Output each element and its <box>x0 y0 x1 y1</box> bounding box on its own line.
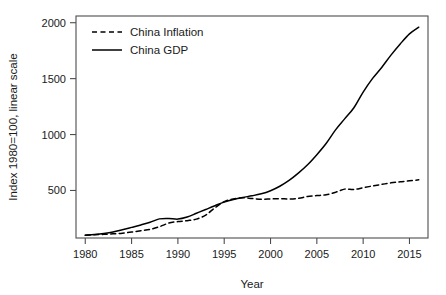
chart-figure: 500100015002000 198019851990199520002005… <box>0 0 446 295</box>
x-axis-title: Year <box>240 278 263 290</box>
legend-label-gdp: China GDP <box>130 44 188 56</box>
y-tick-label: 1000 <box>42 129 66 141</box>
x-tick-label: 2005 <box>305 248 329 260</box>
x-tick-label: 1995 <box>212 248 236 260</box>
y-tick-label: 1500 <box>42 73 66 85</box>
line-chart: 500100015002000 198019851990199520002005… <box>0 0 446 295</box>
legend-label-inflation: China Inflation <box>130 26 204 38</box>
x-tick-label: 1985 <box>119 248 143 260</box>
x-tick-label: 2010 <box>351 248 375 260</box>
y-tick-label: 2000 <box>42 17 66 29</box>
y-tick-label: 500 <box>48 184 66 196</box>
x-tick-label: 2015 <box>397 248 421 260</box>
x-tick-label: 1990 <box>166 248 190 260</box>
y-axis-title: Index 1980=100, linear scale <box>7 53 19 200</box>
x-tick-label: 2000 <box>258 248 282 260</box>
x-tick-label: 1980 <box>73 248 97 260</box>
